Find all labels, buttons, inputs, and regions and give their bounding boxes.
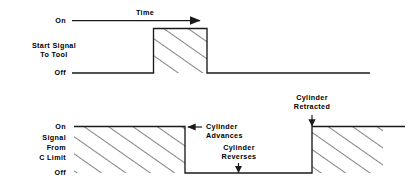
start-signal-name-line-2: To Tool xyxy=(8,50,100,59)
timing-diagram-canvas xyxy=(0,0,418,191)
cylinder-retracted-label-line-1: Cylinder xyxy=(277,93,347,102)
timing-diagram: Time On Off Start Signal To Tool On Off … xyxy=(0,0,418,191)
c-limit-name-line-2: From xyxy=(4,143,66,152)
cylinder-reverses-label-line-2: Reverses xyxy=(204,152,274,161)
cylinder-advances-label-line-1: Cylinder xyxy=(206,122,276,131)
cylinder-retracted-label-line-2: Retracted xyxy=(277,102,347,111)
waveform-start-signal-to-tool xyxy=(72,29,370,74)
signal-start-signal-to-tool xyxy=(72,21,370,74)
start-signal-name-line-1: Start Signal xyxy=(8,41,100,50)
hatch-fill-left-on-region xyxy=(74,127,185,174)
start-signal-off-label: Off xyxy=(22,68,66,77)
pulse-hatch-fill-start-signal xyxy=(154,29,208,74)
cylinder-reverses-label-line-1: Cylinder xyxy=(204,143,274,152)
cylinder-advances-label-line-2: Advances xyxy=(206,131,276,140)
c-limit-on-label: On xyxy=(22,122,66,131)
c-limit-off-label: Off xyxy=(22,168,66,177)
hatch-fill-right-on-region xyxy=(312,127,383,174)
time-axis-label: Time xyxy=(110,8,180,17)
c-limit-name-line-1: Signal xyxy=(4,133,66,142)
start-signal-on-label: On xyxy=(22,16,66,25)
c-limit-name-line-3: C Limit xyxy=(4,153,66,162)
